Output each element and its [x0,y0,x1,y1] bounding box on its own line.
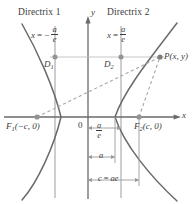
point-D2-subscript: 2 [111,63,114,70]
y-axis-label: y [91,8,95,17]
directrix-2-eq-lhs: x [107,30,111,40]
directrix-2-eq-relation: = [113,30,118,40]
measure-a-over-e-denominator: e [96,131,102,140]
directrix-2-fraction: ae [120,25,126,43]
point-P-dot [157,54,162,59]
y-axis-arrowhead [85,16,90,23]
focus-2-coordinates: (c, 0) [143,121,162,131]
point-P-label: P(x, y) [164,52,188,61]
focus-2-label: F2(c, 0) [134,122,162,132]
point-D2-dot [119,55,124,60]
focus-1-label: F1(−c, 0) [6,122,40,132]
figure-canvas [0,0,192,204]
point-D1-subscript: 1 [51,63,54,70]
point-D2-label: D2 [104,60,114,70]
x-axis-arrowhead [174,114,181,119]
directrix-2-equation: x=ae [107,25,126,43]
focus-1-dot [34,114,39,119]
directrix-1-eq-relation: = − [37,30,49,40]
directrix-1-fraction: ae [51,25,57,43]
origin-label: 0 [78,121,83,130]
measure-c-value: ae [111,173,119,183]
measure-a-over-e-fraction: ae [96,121,102,139]
directrix-1-equation: x= −ae [31,25,58,43]
measure-a-over-e-label: ae [96,121,102,139]
measure-c-symbol: c [98,173,102,183]
hyperbola-directrix-figure: Directrix 1 x= −ae Directrix 2 x=ae y x … [0,0,192,204]
measure-a-label: a [99,151,103,160]
directrix-2-fraction-denominator: e [120,35,126,44]
measure-c-label: c=ae [98,174,119,183]
measure-c-equals: = [104,173,109,183]
focus-1-coordinates: (−c, 0) [15,121,40,131]
directrix-1-fraction-denominator: e [51,35,57,44]
hyperbola-right-branch [115,23,177,201]
directrix-2-title: Directrix 2 [107,8,150,18]
point-D1-dot [53,55,58,60]
point-D1-label: D1 [44,60,54,70]
x-axis-label: x [182,111,186,120]
directrix-1-eq-lhs: x [31,30,35,40]
directrix-1-title: Directrix 1 [18,8,61,18]
